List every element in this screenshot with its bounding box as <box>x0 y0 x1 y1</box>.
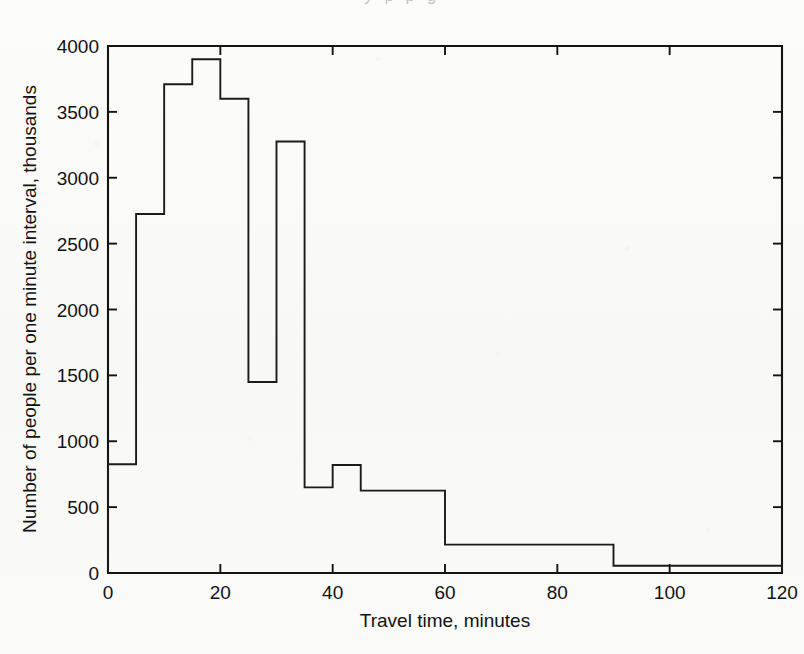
x-tick-label: 80 <box>547 582 568 603</box>
x-tick-label: 20 <box>210 582 231 603</box>
x-axis-tick-labels: 020406080100120 <box>103 582 798 603</box>
x-axis-title: Travel time, minutes <box>360 610 530 631</box>
x-tick-label: 60 <box>434 582 455 603</box>
y-tick-label: 1000 <box>57 431 99 452</box>
histogram-series-group <box>108 59 782 573</box>
y-tick-label: 3500 <box>57 102 99 123</box>
y-tick-label: 4000 <box>57 36 99 57</box>
y-tick-label: 0 <box>88 563 99 584</box>
x-tick-label: 100 <box>654 582 686 603</box>
travel-time-histogram-svg: 05001000150020002500300035004000 0204060… <box>0 0 804 654</box>
y-tick-label: 500 <box>67 497 99 518</box>
histogram-step-outline <box>108 59 782 573</box>
y-tick-label: 2000 <box>57 300 99 321</box>
x-tick-label: 0 <box>103 582 114 603</box>
y-axis-title: Number of people per one minute interval… <box>19 85 40 533</box>
y-tick-label: 3000 <box>57 168 99 189</box>
y-axis-tick-labels: 05001000150020002500300035004000 <box>57 36 99 584</box>
x-tick-label: 40 <box>322 582 343 603</box>
y-tick-label: 1500 <box>57 365 99 386</box>
y-tick-label: 2500 <box>57 234 99 255</box>
x-tick-label: 120 <box>766 582 798 603</box>
histogram-figure: 05001000150020002500300035004000 0204060… <box>0 0 804 654</box>
